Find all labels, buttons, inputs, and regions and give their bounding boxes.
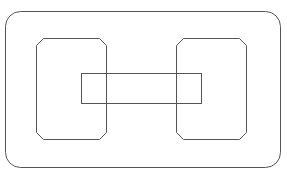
- diagram-svg: [0, 0, 287, 181]
- right-block: [177, 39, 247, 140]
- connector-bar: [82, 74, 202, 104]
- diagram-canvas: [0, 0, 287, 181]
- outer-frame: [6, 12, 281, 168]
- left-block: [37, 39, 107, 140]
